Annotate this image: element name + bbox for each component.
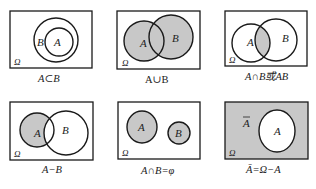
label-a: A bbox=[33, 127, 41, 139]
caption-difference: A−B bbox=[41, 164, 62, 175]
label-b: B bbox=[282, 32, 289, 44]
panel-subset: B A Ω A⊂B bbox=[10, 11, 92, 84]
universe-rect bbox=[10, 11, 92, 68]
label-a: A bbox=[246, 36, 254, 48]
label-a: A bbox=[53, 36, 61, 48]
omega-label: Ω bbox=[229, 55, 236, 65]
omega-label: Ω bbox=[122, 148, 129, 158]
label-a-complement: A bbox=[242, 117, 250, 129]
label-b: B bbox=[175, 127, 182, 139]
label-a: A bbox=[273, 125, 281, 137]
panel-disjoint: A B Ω A∩B=φ bbox=[118, 102, 200, 176]
caption-intersection: A∩B或AB bbox=[244, 71, 289, 82]
omega-label: Ω bbox=[229, 148, 236, 158]
omega-label: Ω bbox=[14, 149, 21, 159]
omega-label: Ω bbox=[14, 57, 21, 67]
caption-subset: A⊂B bbox=[37, 73, 60, 84]
panel-difference: A B Ω A−B bbox=[10, 102, 93, 175]
caption-complement: Ā=Ω−A bbox=[245, 164, 281, 175]
caption-disjoint: A∩B=φ bbox=[140, 165, 174, 176]
label-b: B bbox=[172, 32, 179, 44]
caption-union: A∪B bbox=[145, 74, 168, 85]
label-b: B bbox=[62, 124, 69, 136]
panel-complement: A A Ω Ā=Ω−A bbox=[225, 102, 308, 175]
label-b: B bbox=[37, 36, 44, 48]
label-a: A bbox=[137, 121, 145, 133]
omega-label: Ω bbox=[122, 58, 129, 68]
label-a: A bbox=[139, 37, 147, 49]
venn-diagrams: B A Ω A⊂B A B Ω A∪B A B Ω A∩B或AB A B Ω A bbox=[0, 0, 316, 189]
panel-intersection: A B Ω A∩B或AB bbox=[225, 11, 307, 82]
panel-union: A B Ω A∪B bbox=[117, 11, 200, 85]
